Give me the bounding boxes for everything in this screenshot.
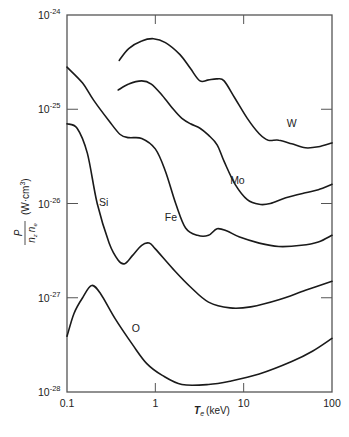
svg-text:nzne: nzne bbox=[26, 223, 38, 243]
x-tick-label: 1 bbox=[152, 397, 158, 409]
x-tick-label: 100 bbox=[323, 397, 341, 409]
x-tick-label: 0.1 bbox=[60, 397, 75, 409]
curve-o bbox=[67, 285, 332, 385]
curve-label-o: O bbox=[132, 322, 140, 334]
svg-text:(W·cm3): (W·cm3) bbox=[19, 178, 31, 215]
curve-w bbox=[119, 39, 332, 148]
curve-label-mo: Mo bbox=[230, 174, 245, 186]
curve-fe bbox=[67, 67, 332, 246]
radiated-power-chart: 0.111010010-2410-2510-2610-2710-28 WMoFe… bbox=[0, 0, 349, 437]
y-tick-label: 10-25 bbox=[38, 101, 61, 115]
y-tick-label: 10-26 bbox=[38, 196, 61, 210]
x-tick-label: 10 bbox=[238, 397, 250, 409]
y-tick-label: 10-27 bbox=[38, 290, 61, 304]
y-tick-label: 10-28 bbox=[38, 384, 61, 398]
y-tick-label: 10-24 bbox=[38, 7, 61, 21]
curve-label-fe: Fe bbox=[165, 211, 177, 223]
curve-label-w: W bbox=[287, 117, 297, 129]
series-labels: WMoFeSiO bbox=[99, 117, 297, 334]
series-curves bbox=[67, 39, 332, 386]
y-axis-title: P nzne (W·cm3) bbox=[13, 178, 38, 245]
curve-si bbox=[67, 124, 332, 308]
svg-text:P: P bbox=[13, 229, 24, 236]
curve-label-si: Si bbox=[99, 196, 108, 208]
svg-text:Te(keV): Te(keV) bbox=[194, 405, 230, 417]
x-axis-title: Te(keV) bbox=[194, 405, 230, 417]
